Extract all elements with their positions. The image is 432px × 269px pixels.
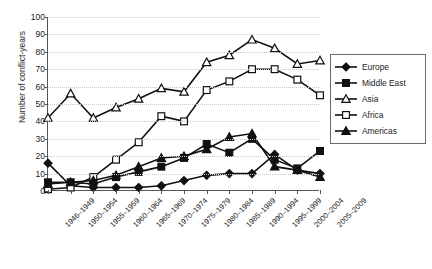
legend-item-americas[interactable]: Americas	[333, 123, 422, 139]
y-tick-mark	[45, 174, 48, 175]
chart-figure: Number of conflict-years 010203040506070…	[0, 0, 432, 269]
legend-item-label: Middle East	[359, 78, 406, 88]
data-point	[135, 139, 142, 146]
legend-item-label: Americas	[359, 126, 397, 136]
series-asia	[44, 35, 324, 121]
y-tick-mark	[45, 34, 48, 35]
data-point	[294, 76, 301, 83]
x-tick-mark	[116, 190, 117, 194]
legend-marker-icon	[333, 92, 359, 106]
x-tick-mark	[184, 190, 185, 194]
y-gridline	[48, 174, 319, 175]
x-tick-mark	[71, 190, 72, 194]
y-tick-mark	[45, 104, 48, 105]
y-tick-mark	[45, 156, 48, 157]
y-tick-mark	[45, 69, 48, 70]
x-tick-mark	[320, 190, 321, 194]
data-point	[157, 182, 165, 190]
legend-item-label: Asia	[359, 94, 378, 104]
legend-item-label: Europe	[359, 62, 389, 72]
chart-legend: EuropeMiddle EastAsiaAfricaAmericas	[330, 54, 426, 144]
y-gridline	[48, 69, 319, 70]
y-gridline	[48, 104, 319, 105]
y-tick-label: 80	[36, 47, 45, 57]
x-tick-mark	[297, 190, 298, 194]
x-tick-mark	[139, 190, 140, 194]
y-tick-label: 0	[40, 186, 45, 196]
y-gridline	[48, 156, 319, 157]
y-gridline	[48, 52, 319, 53]
x-tick-mark	[207, 190, 208, 194]
legend-item-africa[interactable]: Africa	[333, 107, 422, 123]
legend-marker-icon	[333, 124, 359, 138]
y-tick-label: 20	[36, 151, 45, 161]
data-point	[158, 163, 165, 170]
y-gridline	[48, 34, 319, 35]
data-point	[248, 129, 256, 137]
x-tick-mark	[229, 190, 230, 194]
y-tick-label: 40	[36, 116, 45, 126]
x-tick-mark	[161, 190, 162, 194]
legend-marker-icon	[333, 76, 359, 90]
y-axis-title: Number of conflict-years	[17, 7, 27, 147]
legend-item-middle-east[interactable]: Middle East	[333, 75, 422, 91]
data-point	[158, 113, 165, 120]
data-point	[317, 148, 324, 155]
y-tick-mark	[45, 139, 48, 140]
data-point	[157, 84, 165, 92]
data-point	[317, 92, 324, 99]
legend-item-asia[interactable]: Asia	[333, 91, 422, 107]
y-tick-label: 50	[36, 99, 45, 109]
x-tick-mark	[275, 190, 276, 194]
y-tick-label: 90	[36, 29, 45, 39]
data-point	[226, 78, 233, 85]
y-tick-mark	[45, 17, 48, 18]
y-gridline	[48, 17, 319, 18]
legend-marker-icon	[333, 60, 359, 74]
data-point	[226, 149, 233, 156]
data-point	[203, 87, 210, 94]
y-tick-label: 30	[36, 134, 45, 144]
y-tick-label: 70	[36, 64, 45, 74]
legend-item-europe[interactable]: Europe	[333, 59, 422, 75]
y-gridline	[48, 87, 319, 88]
data-point	[134, 95, 142, 103]
y-tick-mark	[45, 52, 48, 53]
y-tick-label: 100	[31, 12, 45, 22]
y-tick-mark	[45, 121, 48, 122]
y-tick-label: 10	[36, 169, 45, 179]
data-point	[180, 177, 188, 185]
y-tick-label: 60	[36, 82, 45, 92]
x-tick-mark	[252, 190, 253, 194]
y-gridline	[48, 121, 319, 122]
data-point	[203, 171, 211, 179]
legend-marker-icon	[333, 108, 359, 122]
x-tick-mark	[93, 190, 94, 194]
y-gridline	[48, 139, 319, 140]
x-tick-mark	[48, 190, 49, 194]
y-tick-mark	[45, 87, 48, 88]
data-point	[248, 35, 256, 43]
data-point	[113, 156, 120, 163]
data-point	[66, 89, 74, 97]
plot-area: 01020304050607080901001946–19491950–1954…	[47, 17, 319, 191]
data-point	[316, 56, 324, 64]
legend-item-label: Africa	[359, 110, 383, 120]
